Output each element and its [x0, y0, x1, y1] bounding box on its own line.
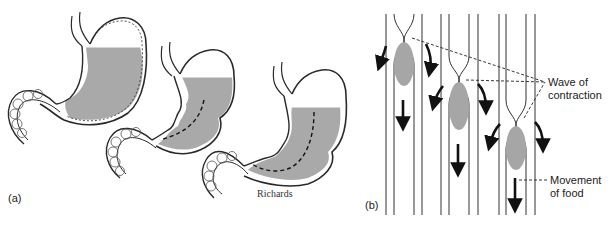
panel-a-illustration	[0, 0, 380, 225]
stomach-full	[8, 12, 146, 144]
tube-stage-3	[490, 14, 543, 215]
movement-label-line2: of food	[550, 187, 601, 200]
wave-of-contraction-label: Wave of contraction	[548, 76, 602, 101]
movement-of-food-label: Movement of food	[550, 174, 601, 199]
panel-a-label: (a)	[8, 192, 21, 204]
wave-label-line1: Wave of	[548, 76, 602, 89]
movement-label-line1: Movement	[550, 174, 601, 187]
illustrator-credit: Richards	[257, 188, 293, 200]
figure-peristalsis: (a) Richards	[0, 0, 616, 225]
tube-stage-2	[434, 14, 486, 215]
wave-of-contraction-leaders	[412, 38, 545, 118]
wave-label-line2: contraction	[548, 89, 602, 102]
panel-b-label: (b)	[365, 199, 378, 211]
tube-stage-1	[380, 14, 431, 215]
